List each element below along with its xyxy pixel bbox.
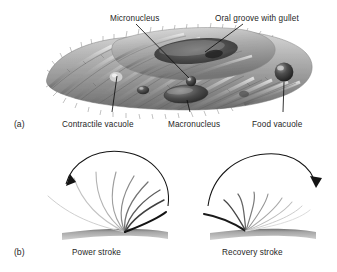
label-contractile-vacuole: Contractile vacuole <box>62 120 134 130</box>
power-stroke-arrow <box>66 151 169 206</box>
panel-tag-b: (b) <box>14 247 25 257</box>
recovery-stroke-arrowhead <box>310 176 322 188</box>
label-macronucleus: Macronucleus <box>168 120 220 130</box>
label-micronucleus: Micronucleus <box>110 14 159 24</box>
recovery-stroke-diagram <box>204 154 322 240</box>
figure-illustration <box>0 0 337 272</box>
caption-power-stroke: Power stroke <box>72 248 121 258</box>
power-stroke-diagram <box>48 151 169 240</box>
caption-recovery-stroke: Recovery stroke <box>222 248 283 258</box>
recovery-stroke-substrate <box>210 229 316 240</box>
paramecium-illustration <box>44 23 312 119</box>
label-oral-groove-with-gullet: Oral groove with gullet <box>215 14 299 24</box>
contractile-vacuole-highlight <box>112 74 117 78</box>
power-stroke-cilia <box>48 172 166 232</box>
food-vacuole-secondary-highlight <box>139 87 143 90</box>
label-food-vacuole: Food vacuole <box>252 120 302 130</box>
panel-tag-a: (a) <box>14 119 25 129</box>
recovery-stroke-arrow <box>208 154 316 206</box>
biology-figure: Micronucleus Oral groove with gullet Con… <box>0 0 337 272</box>
food-vacuole-tertiary <box>239 91 249 97</box>
food-vacuole <box>275 63 294 82</box>
power-stroke-substrate <box>62 229 168 240</box>
food-vacuole-highlight <box>277 66 284 71</box>
food-vacuole-secondary <box>137 86 149 94</box>
micronucleus-highlight <box>188 78 191 81</box>
micronucleus <box>186 76 196 86</box>
recovery-stroke-cilia <box>204 192 310 231</box>
